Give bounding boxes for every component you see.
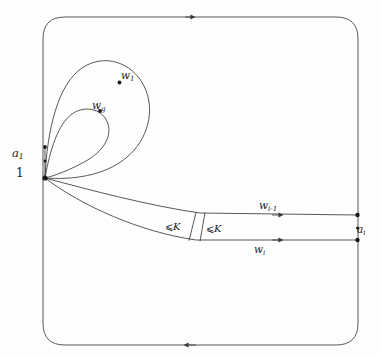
left-edge-dot-upper: [43, 145, 47, 149]
right-edge-dot-lower: [355, 238, 359, 242]
fundamental-domain-frame: [43, 17, 358, 345]
label-loop-w1: w1: [121, 70, 135, 82]
label-base-vertex: a1: [12, 148, 24, 161]
figure-canvas: [0, 0, 381, 358]
strand-w-i-minus-1: [45, 178, 358, 215]
right-edge-dot-upper: [355, 213, 359, 217]
label-base-index: 1: [16, 167, 24, 179]
label-band-right-bound: ⩽K: [206, 224, 221, 234]
base-vertex-dot: [42, 175, 47, 180]
label-strand-lower: wi: [254, 244, 265, 256]
label-strand-upper: wi-1: [259, 200, 277, 212]
label-end-vertex: ai: [357, 224, 366, 236]
band-divider-left: [189, 213, 196, 241]
label-loop-wg: wg: [92, 100, 106, 112]
loop-wg-curve: [45, 109, 109, 178]
label-band-left-bound: ⩽K: [165, 222, 180, 232]
left-edge-dot-middle: [44, 160, 47, 163]
topology-figure: a1 1 w1 wg wi-1 wi ai ⩽K ⩽K: [0, 0, 381, 358]
band-divider-right: [200, 213, 205, 242]
